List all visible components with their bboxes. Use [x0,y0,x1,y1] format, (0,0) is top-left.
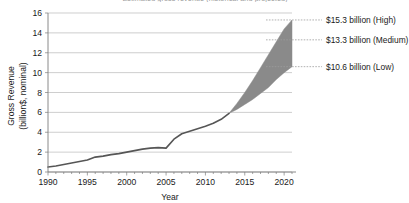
y-tick-label: 2 [37,147,42,157]
y-tick-labels: 0246810121416 [32,8,42,177]
annotation-label: $10.6 billion (Low) [326,62,394,72]
y-tick-label: 0 [37,167,42,177]
y-tick-label: 14 [32,28,42,38]
x-tick-label: 2020 [275,177,294,187]
chart-figure: Estimated gross revenue (historical and … [0,0,409,203]
x-tick-label: 2000 [117,177,136,187]
data-lines-group [48,113,229,167]
projection-band-area [229,20,292,113]
y-tick-label: 16 [32,8,42,18]
y-tick-label: 10 [32,68,42,78]
x-axis-title: Year [161,192,179,202]
x-tick-label: 2010 [196,177,215,187]
x-tick-labels: 1990199520002005201020152020 [38,177,293,187]
y-tick-label: 6 [37,107,42,117]
projection-band [229,20,292,113]
x-tick-label: 1995 [78,177,97,187]
y-tick-label: 8 [37,88,42,98]
y-tick-label: 12 [32,48,42,58]
historical-revenue-line [48,113,229,167]
annotation-label: $15.3 billion (High) [326,15,396,25]
y-axis-title-line2: (billion$, nominal) [18,62,28,129]
x-tick-label: 2005 [157,177,176,187]
x-tick-label: 1990 [38,177,57,187]
revenue-projection-chart: 0246810121416 19901995200020052010201520… [0,0,409,203]
annotation-label: $13.3 billion (Medium) [326,35,409,45]
x-tick-label: 2015 [235,177,254,187]
y-axis-title-line1: Gross Revenue [6,66,16,126]
y-tick-label: 4 [37,127,42,137]
